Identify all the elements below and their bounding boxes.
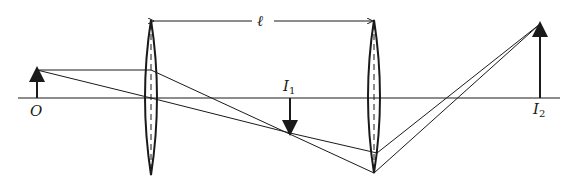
- lens-2: [368, 20, 380, 173]
- object-label: O: [30, 102, 42, 120]
- optics-diagram: ℓ O I1 I2: [0, 0, 572, 183]
- second-image-label: I2: [532, 100, 545, 119]
- first-image-label: I1: [282, 77, 295, 96]
- separation-label: ℓ: [257, 12, 263, 30]
